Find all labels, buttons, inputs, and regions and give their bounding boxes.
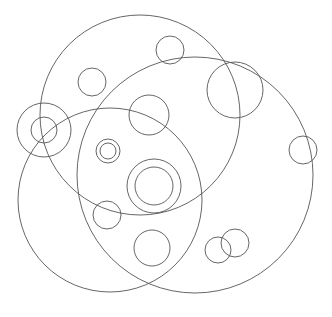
circles-figure (0, 0, 332, 317)
drawing-canvas (0, 0, 332, 317)
